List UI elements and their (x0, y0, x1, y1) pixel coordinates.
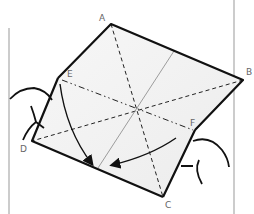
origami-diagram: A B C D E F (0, 0, 254, 214)
paper-square (32, 24, 243, 197)
label-f: F (190, 118, 195, 128)
label-b: B (246, 67, 252, 77)
label-e: E (67, 69, 73, 79)
label-d: D (20, 144, 27, 154)
label-a: A (99, 13, 106, 23)
label-c: C (165, 200, 171, 210)
